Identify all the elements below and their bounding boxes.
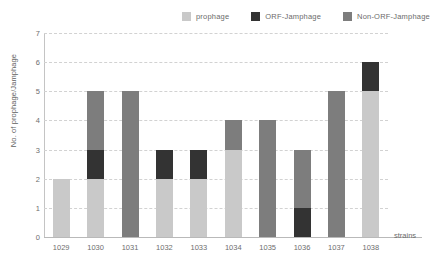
bar-segment[interactable] xyxy=(225,150,242,237)
bar-stack[interactable] xyxy=(259,120,276,237)
bar-stack[interactable] xyxy=(190,150,207,237)
x-axis-tick-label: 1036 xyxy=(285,243,319,252)
bar-segment[interactable] xyxy=(259,120,276,237)
plot-area xyxy=(44,33,388,237)
x-axis-tick-label: 1029 xyxy=(44,243,78,252)
y-axis-tick-label: 5 xyxy=(24,87,40,96)
bar-segment[interactable] xyxy=(294,150,311,208)
bar-segment[interactable] xyxy=(328,91,345,237)
bar-group xyxy=(147,33,181,237)
legend-item[interactable]: Non-ORF-Jamphage xyxy=(343,12,430,21)
bar-group xyxy=(285,33,319,237)
legend-item[interactable]: prophage xyxy=(182,12,229,21)
y-axis-title: No. of prophage/Jamphage xyxy=(9,36,18,166)
legend-label: ORF-Jamphage xyxy=(265,12,321,21)
legend-label: Non-ORF-Jamphage xyxy=(357,12,430,21)
y-axis-tick-label: 3 xyxy=(24,145,40,154)
legend-swatch-icon xyxy=(343,12,352,21)
bar-group xyxy=(78,33,112,237)
x-axis-tick-label: 1032 xyxy=(147,243,181,252)
x-axis-tick-label: 1035 xyxy=(250,243,284,252)
x-axis-title: strains xyxy=(394,231,416,240)
bar-segment[interactable] xyxy=(87,150,104,179)
x-axis-tick-label: 1031 xyxy=(113,243,147,252)
bar-segment[interactable] xyxy=(362,91,379,237)
stacked-bar-chart: prophageORF-JamphageNon-ORF-Jamphage No.… xyxy=(0,0,433,272)
x-axis-tick-label: 1030 xyxy=(78,243,112,252)
bar-stack[interactable] xyxy=(87,91,104,237)
x-axis-tick-label: 1034 xyxy=(216,243,250,252)
y-axis-tick-label: 7 xyxy=(24,29,40,38)
bar-segment[interactable] xyxy=(225,120,242,149)
bar-segment[interactable] xyxy=(53,179,70,237)
bar-segment[interactable] xyxy=(362,62,379,91)
bar-stack[interactable] xyxy=(362,62,379,237)
bar-stack[interactable] xyxy=(328,91,345,237)
bar-stack[interactable] xyxy=(122,91,139,237)
bar-segment[interactable] xyxy=(87,91,104,149)
legend-item[interactable]: ORF-Jamphage xyxy=(251,12,321,21)
x-axis-line xyxy=(44,237,422,238)
x-axis-ticks: 1029103010311032103310341035103610371038 xyxy=(44,243,388,252)
bar-segment[interactable] xyxy=(294,208,311,237)
bar-segment[interactable] xyxy=(122,91,139,237)
bar-group xyxy=(319,33,353,237)
y-axis-tick-label: 4 xyxy=(24,116,40,125)
y-axis-ticks: 76543210 xyxy=(22,33,40,237)
bar-group xyxy=(354,33,388,237)
bar-segment[interactable] xyxy=(190,150,207,179)
legend-swatch-icon xyxy=(251,12,260,21)
bar-segment[interactable] xyxy=(156,179,173,237)
legend-label: prophage xyxy=(196,12,229,21)
x-axis-tick-label: 1038 xyxy=(354,243,388,252)
bar-stack[interactable] xyxy=(156,150,173,237)
y-axis-tick-label: 2 xyxy=(24,174,40,183)
chart-legend: prophageORF-JamphageNon-ORF-Jamphage xyxy=(182,12,430,21)
bar-stack[interactable] xyxy=(53,179,70,237)
bar-group xyxy=(182,33,216,237)
bar-segment[interactable] xyxy=(156,150,173,179)
y-axis-tick-label: 0 xyxy=(24,233,40,242)
bar-group xyxy=(113,33,147,237)
bar-segment[interactable] xyxy=(87,179,104,237)
y-axis-tick-label: 6 xyxy=(24,58,40,67)
legend-swatch-icon xyxy=(182,12,191,21)
bar-group xyxy=(250,33,284,237)
bar-group xyxy=(44,33,78,237)
x-axis-tick-label: 1037 xyxy=(319,243,353,252)
bar-group xyxy=(216,33,250,237)
bar-stack[interactable] xyxy=(225,120,242,237)
bar-segment[interactable] xyxy=(190,179,207,237)
x-axis-tick-label: 1033 xyxy=(182,243,216,252)
bar-stack[interactable] xyxy=(294,150,311,237)
y-axis-tick-label: 1 xyxy=(24,203,40,212)
bar-series-group xyxy=(44,33,388,237)
